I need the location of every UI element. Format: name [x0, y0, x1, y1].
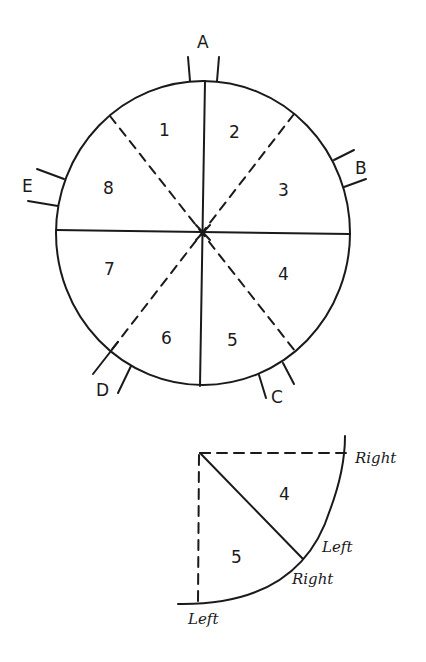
marker-label-d: D	[96, 380, 109, 400]
sector-label-2: 2	[229, 122, 240, 142]
marker-c-tick-right	[283, 363, 294, 384]
edge-label-top-right: Right	[354, 449, 397, 467]
marker-d-tick-right	[118, 366, 131, 393]
edge-label-mid-right: Right	[291, 570, 334, 588]
detail-diagonal	[201, 454, 303, 559]
detail-dashed-vertical	[198, 455, 199, 604]
marker-a-tick-right	[217, 57, 219, 81]
edge-label-mid-left: Left	[321, 538, 353, 556]
marker-b-tick-top	[334, 150, 354, 160]
marker-label-b: B	[355, 158, 367, 178]
sector-label-5: 5	[227, 330, 238, 350]
marker-e-tick-top	[37, 169, 64, 179]
marker-label-a: A	[197, 32, 209, 52]
sector-label-3: 3	[278, 180, 289, 200]
marker-a-tick-left	[188, 57, 190, 81]
detail-sector-label-4: 4	[279, 484, 290, 504]
sector-label-6: 6	[161, 328, 172, 348]
marker-label-e: E	[22, 176, 33, 196]
marker-b-tick-bottom	[344, 179, 366, 187]
detail-sector-label-5: 5	[231, 547, 242, 567]
sector-label-1: 1	[159, 120, 170, 140]
marker-c-tick-left	[259, 375, 266, 398]
sector-label-7: 7	[104, 259, 115, 279]
marker-label-c: C	[271, 387, 283, 407]
sector-label-4: 4	[278, 264, 289, 284]
diagram-canvas: 1 2 3 4 5 6 7 8 A B C D E 4 5 Right Left…	[0, 0, 426, 662]
sector-label-8: 8	[103, 178, 114, 198]
marker-e-tick-bottom	[28, 201, 58, 206]
edge-label-bottom-left: Left	[187, 610, 219, 628]
